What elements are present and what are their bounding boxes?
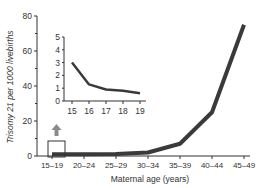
y-tick-label: 0 (27, 151, 32, 161)
arrow-up-icon (52, 124, 62, 130)
data-line (52, 25, 244, 155)
x-tick-label: 15–19 (41, 161, 64, 170)
inset-x-tick-label: 16 (84, 106, 94, 116)
inset-y-tick-label: 3 (55, 58, 60, 68)
inset-x-tick-label: 15 (67, 106, 77, 116)
inset-chart: 0123451516171819 (55, 32, 146, 116)
y-tick-label: 20 (23, 116, 33, 126)
x-tick-label: 30–34 (137, 161, 160, 170)
y-tick-label: 40 (23, 81, 33, 91)
inset-x-tick-label: 17 (101, 106, 111, 116)
inset-y-tick-label: 1 (55, 83, 60, 93)
x-tick-label: 40–44 (201, 161, 224, 170)
inset-y-tick-label: 4 (55, 45, 60, 55)
x-axis-label: Maternal age (years) (111, 174, 190, 184)
arrow-up-icon (55, 129, 59, 136)
main-data-line (48, 25, 244, 157)
x-tick-label: 25–29 (105, 161, 128, 170)
trisomy-chart: 02040608015–1920–2425–2930–3435–3940–444… (0, 0, 262, 188)
inset-y-tick-label: 0 (55, 96, 60, 106)
inset-x-tick-label: 18 (118, 106, 128, 116)
y-tick-label: 80 (23, 11, 33, 21)
y-tick-label: 60 (23, 46, 33, 56)
inset-x-tick-label: 19 (135, 106, 145, 116)
inset-data-line (72, 63, 140, 94)
y-axis-label: Trisomy 21 per 1000 livebirths (5, 30, 15, 144)
inset-y-tick-label: 5 (55, 32, 60, 42)
x-tick-label: 45–49 (233, 161, 256, 170)
inset-y-tick-label: 2 (55, 70, 60, 80)
x-tick-label: 35–39 (169, 161, 192, 170)
x-tick-label: 20–24 (73, 161, 96, 170)
